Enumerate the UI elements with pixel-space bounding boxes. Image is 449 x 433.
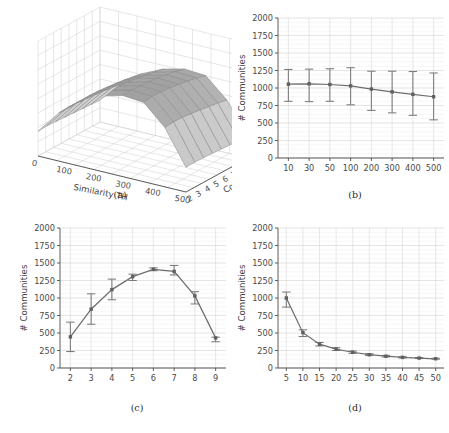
x-tick-label: 30 [364,373,374,383]
y-tick-label: 250 [257,346,273,356]
x-tick-label: 4 [109,373,114,383]
caption-d: (d) [335,402,375,413]
data-point [417,356,420,359]
y-tick-label: 1500 [252,48,273,58]
y-tick-label: 750 [257,311,273,321]
y-tick-label: 1000 [34,293,55,303]
y-tick-label: 1250 [252,276,273,286]
caption-a: (a) [100,189,140,200]
y-tick-label: 2000 [252,13,273,23]
x-tick-label: 20 [331,373,341,383]
y-tick-label: 1250 [34,276,55,286]
y-tick-label: 1250 [252,66,273,76]
caption-c: (c) [117,402,157,413]
x-tick-label: 400 [405,163,421,173]
panel-b-svg: 0250500750100012501500175020001030501002… [232,8,449,194]
data-point [285,296,288,299]
y-tick-label: 750 [257,101,273,111]
data-point [328,83,331,86]
x-tick-label: 50 [430,373,440,383]
y-tick-label: 2000 [34,223,55,233]
data-point [411,93,414,96]
y-axis-label: # Communities [237,54,247,121]
data-point [301,331,304,334]
data-point [368,353,371,356]
y-tick-label: 2000 [252,223,273,233]
panel-b-line-chart: 0250500750100012501500175020001030501002… [232,8,449,194]
data-point [401,356,404,359]
y-tick-label: 750 [39,311,55,321]
y-tick-label: 1750 [252,31,273,41]
data-point [172,270,175,273]
y-tick-label: 0 [50,363,55,373]
y-tick-label: 1000 [252,293,273,303]
x-tick-label: 300 [384,163,400,173]
data-point [89,308,92,311]
y-axis-label: # Communities [19,264,29,331]
x-tick-label: 25 [347,373,357,383]
y-tick-label: 500 [257,118,273,128]
data-point [434,357,437,360]
x-tick-label: 5 [130,373,135,383]
x-tick-label: 5 [284,373,289,383]
x-tick-label: 3 [89,373,94,383]
surface-mesh [38,69,232,167]
x-tick-label: 0 [31,158,38,169]
y-tick-label: 5 [211,178,220,189]
x-tick-label: 40 [397,373,407,383]
data-point [69,335,72,338]
data-point [384,355,387,358]
x-tick-label: 200 [364,163,380,173]
y-tick-label: 250 [257,136,273,146]
x-tick-label: 30 [304,163,314,173]
x-tick-label: 100 [343,163,359,173]
y-tick-label: 3 [194,188,203,199]
x-tick-label: 7 [172,373,177,383]
y-tick-label: 250 [39,346,55,356]
data-point [214,336,217,339]
y-axis-label: # Communities [237,264,247,331]
y-tick-label: 1750 [34,241,55,251]
data-point [351,351,354,354]
panel-d-svg: 0250500750100012501500175020005101520253… [232,218,449,404]
x-tick-label: 8 [192,373,197,383]
y-tick-label: 0 [268,153,273,163]
data-point [193,294,196,297]
data-point [318,343,321,346]
x-tick-label: 200 [85,171,102,184]
x-tick-label: 45 [414,373,424,383]
x-tick-label: 50 [325,163,335,173]
data-point [432,95,435,98]
x-tick-label: 35 [381,373,391,383]
y-tick-label: 1750 [252,241,273,251]
data-point [307,82,310,85]
data-point [390,90,393,93]
y-tick-label: 0 [268,363,273,373]
x-tick-label: 2 [68,373,73,383]
x-tick-label: 10 [283,163,293,173]
panel-c-svg: 02505007501000125015001750200023456789# … [14,218,231,404]
x-tick-label: 6 [151,373,156,383]
panel-a-surface-plot: 0100200300400500Similarity TH23456789Con… [0,4,232,204]
x-tick-label: 9 [213,373,218,383]
y-tick-label: 1000 [252,83,273,93]
y-tick-label: 4 [203,183,212,194]
data-point [152,268,155,271]
x-tick-label: 500 [426,163,442,173]
y-tick-label: 500 [39,328,55,338]
data-point [349,84,352,87]
data-point [287,82,290,85]
y-tick-label: 500 [257,328,273,338]
data-point [334,347,337,350]
x-tick-label: 15 [314,373,324,383]
panel-c-line-chart: 02505007501000125015001750200023456789# … [14,218,231,404]
y-tick-label: 1500 [252,258,273,268]
panel-d-line-chart: 0250500750100012501500175020005101520253… [232,218,449,404]
surface-plot-svg: 0100200300400500Similarity TH23456789Con… [0,4,232,204]
x-tick-label: 400 [144,186,161,199]
y-tick-label: 1500 [34,258,55,268]
error-bar [367,71,375,110]
data-point [370,87,373,90]
x-tick-label: 100 [56,164,73,177]
caption-b: (b) [335,189,375,200]
